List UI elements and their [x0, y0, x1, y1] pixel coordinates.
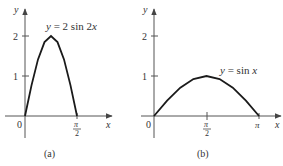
panel-a-x-axis-label: x — [105, 119, 111, 130]
svg-text:2: 2 — [75, 129, 79, 138]
panel-a: y 2 1 0 x π 2 y = 2 sin 2x (a) — [5, 4, 112, 160]
panel-b-y-tick-label-2: 2 — [142, 31, 147, 42]
panel-a-caption: (a) — [44, 148, 55, 160]
panel-b: y 2 1 0 x π 2 π y = sin x (b) — [141, 4, 281, 160]
panel-a-y-tick-label-1: 1 — [13, 71, 18, 82]
panel-b-x-tick-label-pi: π — [255, 120, 260, 130]
panel-a-origin-label: 0 — [17, 119, 22, 130]
figure: y 2 1 0 x π 2 y = 2 sin 2x (a) y 2 1 0 x… — [0, 0, 283, 166]
panel-b-y-axis-label: y — [142, 4, 148, 15]
svg-text:π: π — [204, 120, 209, 129]
panel-b-curve-sinx — [154, 76, 259, 116]
panel-a-curve-2sin2x — [25, 36, 77, 116]
panel-a-y-tick-label-2: 2 — [13, 31, 18, 42]
panel-a-x-tick-label-half-pi: π 2 — [73, 120, 81, 138]
panel-b-y-tick-label-1: 1 — [142, 71, 147, 82]
panel-b-caption: (b) — [197, 148, 209, 160]
svg-text:π: π — [74, 120, 79, 129]
svg-text:2: 2 — [205, 129, 209, 138]
panel-b-origin-label: 0 — [146, 119, 151, 130]
panel-a-y-axis-label: y — [13, 4, 19, 15]
panel-b-equation: y = sin x — [219, 64, 257, 76]
panel-b-x-axis-label: x — [274, 119, 280, 130]
panel-b-x-tick-label-half-pi: π 2 — [203, 120, 211, 138]
panel-a-equation: y = 2 sin 2x — [45, 20, 97, 32]
